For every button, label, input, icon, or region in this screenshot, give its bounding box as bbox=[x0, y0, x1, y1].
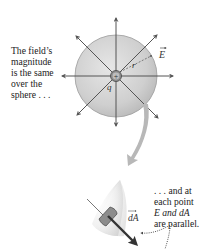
charge-label: q bbox=[107, 82, 112, 92]
caption-line: sphere . . . bbox=[11, 89, 69, 100]
caption-line: each point bbox=[154, 196, 204, 207]
charge-sign: + bbox=[113, 72, 118, 81]
caption-line: are parallel. bbox=[154, 218, 204, 229]
svg-text:E: E bbox=[158, 49, 165, 60]
caption-line: over the bbox=[11, 78, 69, 89]
field-vector-label: E bbox=[158, 48, 166, 60]
caption-line: E and dA bbox=[154, 207, 204, 218]
caption-parallel-vectors: . . . and at each point E and dA are par… bbox=[154, 185, 204, 229]
caption-field-magnitude: The field’s magnitude is the same over t… bbox=[11, 45, 69, 100]
caption-line: The field’s bbox=[11, 45, 69, 56]
radius-label: r bbox=[132, 60, 136, 70]
caption-line: . . . and at bbox=[154, 185, 204, 196]
svg-text:dA: dA bbox=[128, 213, 139, 223]
area-vector-label: dA bbox=[128, 211, 139, 223]
caption-line: magnitude bbox=[11, 56, 69, 67]
caption-line: is the same bbox=[11, 67, 69, 78]
